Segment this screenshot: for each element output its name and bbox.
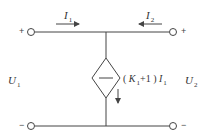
source-label-k: K — [129, 73, 136, 84]
i1-subscript: 1 — [69, 16, 73, 24]
i2-symbol: I — [146, 9, 150, 21]
source-label-plus-one: +1 ) — [140, 73, 159, 84]
terminal-right-bottom — [170, 123, 177, 130]
source-label: ( K1+1 ) I1 — [123, 74, 167, 84]
left-plus-sign: + — [19, 27, 24, 36]
terminal-left-top — [28, 29, 35, 36]
u1-subscript: 1 — [17, 81, 21, 89]
u2-symbol: U — [185, 74, 193, 86]
right-plus-sign: + — [181, 27, 186, 36]
u2-label: U2 — [185, 75, 197, 86]
i1-label: I1 — [64, 10, 72, 21]
u1-label: U1 — [8, 75, 20, 86]
i2-subscript: 2 — [151, 16, 155, 24]
u2-subscript: 2 — [194, 81, 198, 89]
right-minus-sign: − — [181, 121, 186, 130]
left-minus-sign: − — [19, 121, 24, 130]
source-label-i-sub: 1 — [163, 79, 167, 87]
terminal-left-bottom — [28, 123, 35, 130]
circuit-diagram: + + − − I1 I2 U1 U2 ( K1+1 ) I1 — [0, 0, 207, 140]
source-label-k-sub: 1 — [137, 79, 141, 87]
terminal-right-top — [170, 29, 177, 36]
u1-symbol: U — [8, 74, 16, 86]
source-label-i: I — [159, 73, 162, 84]
i2-label: I2 — [146, 10, 154, 21]
i1-symbol: I — [64, 9, 68, 21]
circuit-wiring — [0, 0, 207, 140]
